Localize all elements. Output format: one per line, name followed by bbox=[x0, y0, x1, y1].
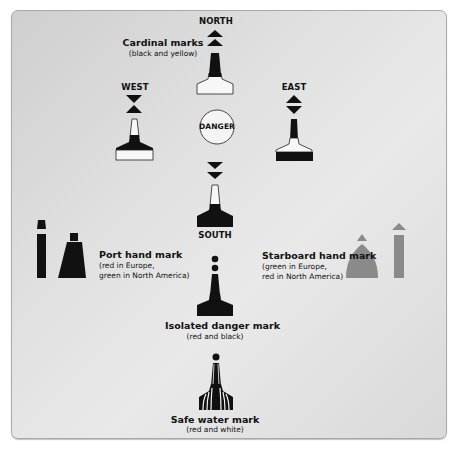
south-cardinal-mark-icon bbox=[197, 162, 233, 227]
safe-water-mark-icon bbox=[199, 354, 233, 411]
south-label: SOUTH bbox=[195, 230, 235, 240]
isolated-danger-title: Isolated danger mark bbox=[165, 320, 265, 331]
safe-water-subtitle: (red and white) bbox=[165, 425, 265, 435]
safe-water-title: Safe water mark bbox=[165, 414, 265, 425]
starboard-hand-title: Starboard hand mark bbox=[262, 250, 376, 261]
port-hand-line1: (red in Europe, bbox=[99, 261, 155, 271]
east-label: EAST bbox=[275, 82, 313, 92]
east-cardinal-mark-icon bbox=[276, 95, 313, 161]
cardinal-marks-title: Cardinal marks bbox=[118, 37, 208, 48]
port-hand-mark-icon bbox=[37, 220, 86, 278]
isolated-danger-mark-icon bbox=[197, 256, 233, 316]
west-cardinal-mark-icon bbox=[116, 95, 153, 160]
port-hand-title: Port hand mark bbox=[99, 249, 182, 260]
west-label: WEST bbox=[116, 82, 154, 92]
port-hand-line2: green in North America) bbox=[99, 271, 190, 281]
cardinal-marks-subtitle: (black and yellow) bbox=[118, 49, 208, 59]
north-label: NORTH bbox=[196, 16, 236, 26]
isolated-danger-subtitle: (red and black) bbox=[165, 332, 265, 342]
starboard-hand-line1: (green in Europe, bbox=[262, 262, 327, 272]
starboard-hand-line2: red in North America) bbox=[262, 272, 343, 282]
danger-label: DANGER bbox=[199, 122, 235, 131]
